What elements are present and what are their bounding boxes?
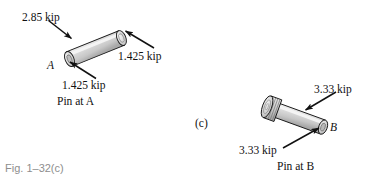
label-point-a: A: [47, 60, 54, 72]
label-pin-a-load-right: 1.425 kip: [118, 51, 161, 63]
arrow-pin-a-bottom: [70, 62, 96, 79]
label-pin-b-load-bottom: 3.33 kip: [239, 145, 277, 157]
label-point-b: B: [330, 122, 337, 134]
arrow-pin-a-right: [126, 31, 155, 48]
title-pin-a-text: Pin at A: [57, 95, 94, 107]
label-pin-a-load-top: 2.85 kip: [22, 12, 60, 24]
title-pin-a: Pin at A: [57, 96, 94, 108]
label-pin-b-load-top: 3.33 kip: [314, 84, 352, 96]
label-pin-a-load-bottom: 1.425 kip: [62, 80, 105, 92]
figure-container: 2.85 kip A 1.425 kip 1.425 kip Pin at A …: [0, 0, 382, 185]
figure-caption: Fig. 1–32(c): [5, 163, 64, 174]
panel-tag-c: (c): [195, 118, 208, 130]
title-pin-b: Pin at B: [277, 161, 314, 173]
arrow-pin-b-bottom: [283, 128, 319, 148]
title-pin-b-text: Pin at B: [277, 160, 314, 172]
